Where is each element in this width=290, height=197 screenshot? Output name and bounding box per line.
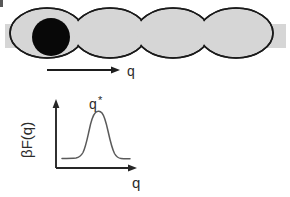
lobe-chain-diagram xyxy=(0,0,286,58)
free-energy-chart: βF(q) q q * xyxy=(18,94,140,191)
reaction-coordinate-arrow: q xyxy=(47,63,135,79)
y-axis-arrow-icon xyxy=(53,99,60,108)
y-axis-label: βF(q) xyxy=(18,122,35,158)
lobe-3-fill xyxy=(137,9,208,56)
x-axis-arrow-icon xyxy=(128,165,137,172)
tagged-monomer xyxy=(32,18,70,56)
lobe-2-fill xyxy=(74,9,145,56)
figure-canvas: q βF(q) q q * xyxy=(0,0,290,197)
figure-root: q βF(q) q q * xyxy=(0,0,290,197)
peak-label-superscript: * xyxy=(98,94,103,106)
lobe-4-fill xyxy=(200,9,271,56)
x-axis-label: q xyxy=(132,174,140,191)
arrow-head-icon xyxy=(111,66,120,73)
free-energy-curve xyxy=(62,111,130,159)
arrow-q-label: q xyxy=(127,63,135,79)
scan-artifact xyxy=(0,0,3,7)
peak-label: q xyxy=(89,96,97,112)
